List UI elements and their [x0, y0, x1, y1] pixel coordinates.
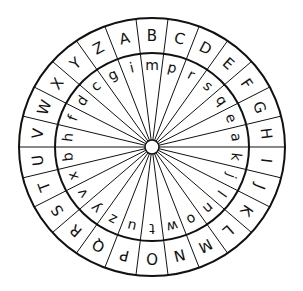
outer-letter-E: E [219, 54, 238, 74]
outer-letter-F: F [237, 75, 257, 92]
outer-letter-A: A [117, 29, 132, 49]
inner-letter-q: q [213, 92, 231, 108]
outer-letter-C: C [172, 29, 186, 49]
outer-letter-W: W [33, 97, 55, 117]
outer-letter-K: K [236, 201, 257, 220]
inner-letter-h: h [59, 132, 76, 143]
inner-letter-m: m [145, 57, 159, 73]
inner-letter-n: n [200, 199, 217, 217]
center-hub[interactable] [145, 140, 159, 154]
inner-letter-o: o [184, 211, 199, 229]
inner-letter-z: z [106, 211, 120, 229]
outer-letter-I: I [257, 157, 275, 164]
outer-letter-D: D [196, 38, 215, 59]
outer-letter-V: V [28, 127, 47, 140]
outer-letter-M: M [196, 235, 216, 257]
inner-letter-t: t [149, 221, 155, 237]
outer-letter-Z: Z [90, 38, 107, 59]
outer-letter-H: H [257, 127, 276, 140]
inner-letter-g: g [105, 65, 120, 83]
inner-letter-u: u [125, 218, 137, 236]
outer-letter-B: B [147, 26, 157, 44]
outer-letter-R: R [66, 220, 86, 240]
inner-letter-v: v [73, 186, 91, 202]
outer-letter-N: N [172, 245, 187, 265]
inner-letter-b: b [59, 151, 76, 162]
inner-letter-c: c [87, 77, 103, 94]
outer-letter-U: U [28, 154, 47, 167]
outer-letter-G: G [249, 99, 270, 116]
outer-letter-O: O [146, 249, 158, 267]
inner-letter-f: f [64, 112, 81, 123]
inner-letter-x: x [64, 169, 82, 182]
outer-letter-L: L [219, 221, 238, 240]
sector-divider [159, 149, 281, 178]
outer-letter-S: S [47, 201, 67, 219]
outer-letter-T: T [34, 178, 55, 195]
outer-letter-Q: Q [89, 235, 108, 256]
outer-letter-P: P [118, 245, 131, 265]
inner-letter-l: l [214, 187, 229, 199]
inner-letter-d: d [73, 92, 91, 108]
outer-letter-X: X [47, 74, 68, 93]
cipher-wheel: ABCDEFGHIJKLMNOPQRSTUVWXYZ imprsqeakjlno… [0, 0, 303, 291]
inner-letter-s: s [200, 77, 216, 94]
inner-letter-j: j [223, 170, 240, 180]
inner-letter-k: k [228, 152, 245, 163]
inner-letter-a: a [228, 132, 245, 142]
inner-letter-e: e [222, 111, 240, 125]
inner-letter-y: y [87, 200, 104, 217]
inner-letter-r: r [185, 66, 198, 83]
inner-letter-w: w [165, 217, 180, 235]
inner-letter-p: p [166, 59, 179, 77]
outer-letter-Y: Y [66, 53, 86, 74]
outer-letter-J: J [250, 180, 269, 191]
inner-letter-i: i [128, 59, 136, 75]
